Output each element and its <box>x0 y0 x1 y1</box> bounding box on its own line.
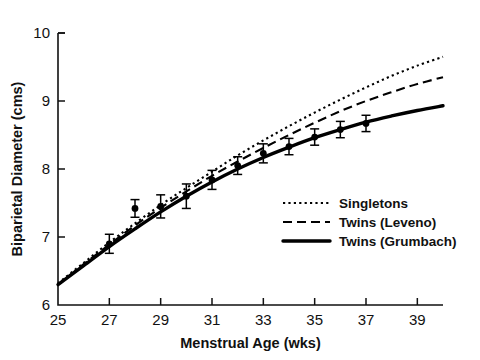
chart-figure: 6789102527293133353739Menstrual Age (wks… <box>0 0 480 360</box>
data-point-marker <box>234 162 241 169</box>
data-point-marker <box>157 203 164 210</box>
data-point-with-error-bar <box>131 200 140 218</box>
data-point-with-error-bar <box>362 115 371 131</box>
legend-label: Twins (Grumbach) <box>339 234 457 249</box>
data-point-marker <box>260 150 267 157</box>
x-tick-label: 29 <box>152 311 169 328</box>
data-point-with-error-bar <box>182 184 191 208</box>
y-tick-label: 7 <box>42 228 50 245</box>
chart-svg: 6789102527293133353739Menstrual Age (wks… <box>0 0 480 360</box>
y-tick-label: 10 <box>33 24 50 41</box>
legend-item-dotted: Singletons <box>283 196 408 211</box>
x-tick-label: 25 <box>50 311 67 328</box>
y-axis-title: Biparietal Diameter (cms) <box>9 81 25 256</box>
data-point-marker <box>183 193 190 200</box>
y-tick-label: 8 <box>42 160 50 177</box>
data-point-with-error-bar <box>310 129 319 145</box>
legend-label: Singletons <box>339 196 408 211</box>
x-tick-label: 37 <box>358 311 375 328</box>
series-curve-dotted <box>58 57 443 283</box>
data-point-marker <box>209 176 216 183</box>
data-point-marker <box>363 120 370 127</box>
x-tick-label: 35 <box>306 311 323 328</box>
data-point-with-error-bar <box>285 138 294 154</box>
y-tick-label: 9 <box>42 92 50 109</box>
x-tick-label: 27 <box>101 311 118 328</box>
legend-item-solid: Twins (Grumbach) <box>283 234 457 249</box>
data-point-with-error-bar <box>336 121 345 137</box>
data-point-marker <box>311 134 318 141</box>
data-point-marker <box>106 240 113 247</box>
legend-label: Twins (Leveno) <box>339 215 436 230</box>
x-tick-label: 31 <box>204 311 221 328</box>
data-point-marker <box>132 205 139 212</box>
x-axis-title: Menstrual Age (wks) <box>180 335 321 351</box>
series-curve-dashed <box>58 77 443 284</box>
data-point-marker <box>286 143 293 150</box>
axis-spines <box>58 33 443 305</box>
data-point-marker <box>337 126 344 133</box>
x-tick-label: 33 <box>255 311 272 328</box>
legend-item-dashed: Twins (Leveno) <box>283 215 436 230</box>
data-point-with-error-bar <box>208 170 217 189</box>
x-tick-label: 39 <box>409 311 426 328</box>
